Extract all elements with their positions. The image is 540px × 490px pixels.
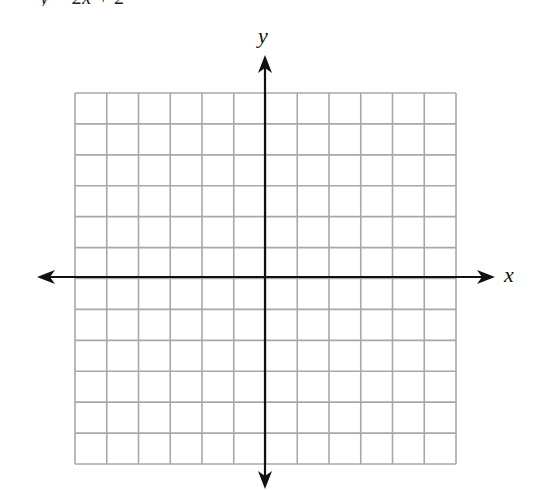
- y-axis-label: y: [258, 25, 268, 47]
- x-axis-label: x: [504, 264, 514, 286]
- coordinate-plane-figure: y = 2x + 2 x y: [0, 0, 540, 490]
- axes: [37, 55, 495, 489]
- coordinate-grid: [0, 0, 540, 490]
